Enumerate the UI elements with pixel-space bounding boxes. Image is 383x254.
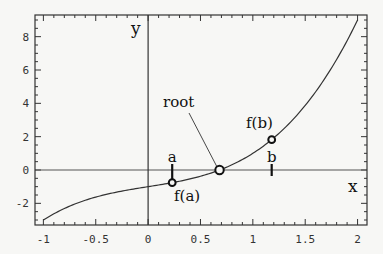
marked-points	[169, 136, 275, 186]
x-tick-label: 2	[354, 233, 361, 246]
y-tick-label: 6	[22, 64, 29, 77]
a-label: a	[168, 148, 177, 166]
fb-point	[268, 136, 275, 143]
y-axis-label: y	[130, 18, 141, 38]
root-label: root	[163, 93, 194, 111]
root-point	[215, 166, 223, 174]
x-axis-label: x	[348, 176, 358, 196]
fb-label: f(b)	[246, 114, 273, 132]
root-leader-line	[189, 113, 217, 166]
b-label: b	[267, 148, 277, 166]
tick-labels: -1-0.500.511.52-202468	[16, 31, 361, 246]
y-tick-label: 2	[22, 131, 29, 144]
y-tick-label: -2	[16, 197, 29, 210]
x-tick-label: 0.5	[191, 233, 211, 246]
x-tick-label: -1	[37, 233, 50, 246]
x-tick-label: -0.5	[82, 233, 109, 246]
y-tick-label: 0	[22, 164, 29, 177]
x-tick-label: 1.5	[295, 233, 315, 246]
function-curve	[43, 20, 357, 220]
tick-marks	[35, 15, 367, 225]
function-plot: -1-0.500.511.52-202468 y x a b f(a) f(b)…	[0, 0, 383, 254]
y-tick-label: 8	[22, 31, 29, 44]
x-tick-label: 0	[145, 233, 152, 246]
plot-frame	[35, 15, 367, 225]
y-tick-label: 4	[22, 97, 29, 110]
x-tick-label: 1	[250, 233, 257, 246]
fa-point	[169, 179, 176, 186]
fa-label: f(a)	[174, 187, 200, 205]
